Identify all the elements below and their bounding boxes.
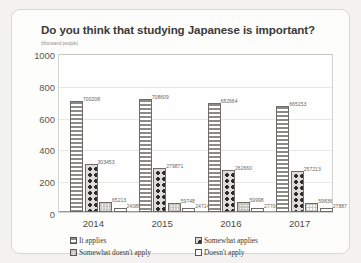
x-axis-tick: 2014: [83, 218, 104, 229]
bar[interactable]: 24089: [114, 208, 127, 212]
y-axis-tick: 0: [50, 209, 55, 220]
bar-value-label: 27887: [333, 203, 347, 209]
x-axis-tick: 2017: [289, 218, 310, 229]
bar-value-label: 279871: [166, 163, 183, 169]
legend-item[interactable]: Somewhat doesn't apply: [70, 248, 195, 257]
bar-group: 66515325721359836278872017: [265, 55, 334, 212]
bar[interactable]: 27887: [320, 208, 333, 212]
bar-value-label: 257213: [304, 166, 321, 172]
bar[interactable]: 59998: [237, 202, 250, 212]
x-axis-tick: 2016: [220, 218, 241, 229]
plot-area: 10008006004002000 7002083034536521324089…: [58, 54, 333, 213]
unit-label: (thousand people): [41, 41, 78, 46]
bar-value-label: 708609: [152, 94, 169, 100]
y-axis-tick: 800: [39, 81, 55, 92]
bar[interactable]: 279871: [153, 168, 166, 212]
chart-card: Do you think that studying Japanese is i…: [11, 9, 350, 254]
bar[interactable]: 262660: [222, 170, 235, 212]
legend-swatch-icon: [195, 237, 202, 244]
bar-group: 70860927987159748247142015: [128, 55, 197, 212]
bar-value-label: 682664: [221, 98, 238, 104]
legend-label: Somewhat applies: [204, 236, 258, 245]
bar-value-label: 303453: [98, 159, 115, 165]
y-axis-tick: 400: [39, 145, 55, 156]
bar-value-label: 59998: [250, 197, 264, 203]
y-axis-tick: 1000: [34, 50, 55, 61]
bar-value-label: 262660: [235, 165, 252, 171]
legend-swatch-icon: [70, 237, 77, 244]
bar-value-label: 65213: [112, 197, 126, 203]
legend-label: Doesn't apply: [204, 248, 245, 257]
x-axis-tick: 2015: [151, 218, 172, 229]
bar-value-label: 700208: [83, 96, 100, 102]
bar[interactable]: 665153: [276, 106, 289, 212]
legend-label: Somewhat doesn't apply: [79, 248, 151, 257]
bar[interactable]: 708609: [139, 99, 152, 212]
legend-item[interactable]: It applies: [70, 236, 195, 245]
page-title: Do you think that studying Japanese is i…: [41, 23, 315, 36]
bar[interactable]: 65213: [99, 202, 112, 212]
legend: It appliesSomewhat appliesSomewhat doesn…: [70, 236, 335, 257]
bar[interactable]: 24714: [182, 208, 195, 212]
bar[interactable]: 59748: [168, 203, 181, 212]
legend-swatch-icon: [70, 249, 77, 256]
bar-value-label: 59836: [318, 198, 332, 204]
y-axis-tick: 600: [39, 113, 55, 124]
bar-group: 70020830345365213240892014: [59, 55, 128, 212]
bar-value-label: 59748: [181, 198, 195, 204]
bar[interactable]: 27704: [251, 208, 264, 212]
bar[interactable]: 682664: [208, 103, 221, 212]
bar[interactable]: 700208: [70, 101, 83, 212]
bar-value-label: 665153: [289, 101, 306, 107]
legend-label: It applies: [79, 236, 106, 245]
legend-swatch-icon: [195, 249, 202, 256]
bar[interactable]: 303453: [85, 164, 98, 212]
bar-group: 68266426266059998277042016: [197, 55, 266, 212]
bar[interactable]: 59836: [305, 203, 318, 213]
y-axis-tick: 200: [39, 177, 55, 188]
legend-item[interactable]: Doesn't apply: [195, 248, 335, 257]
legend-item[interactable]: Somewhat applies: [195, 236, 335, 245]
bar[interactable]: 257213: [291, 171, 304, 212]
